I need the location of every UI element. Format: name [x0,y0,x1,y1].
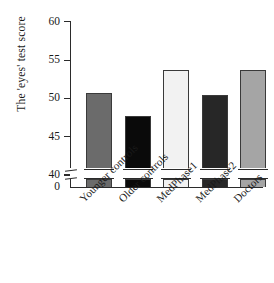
bar-3 [163,0,189,283]
y-tick-label-40: 40 [32,169,60,179]
bar-4 [202,0,228,283]
bar-2 [125,0,151,283]
bar-chart: The 'eyes' test score 4045505560 0 Young… [0,0,274,283]
bar-5 [240,0,266,283]
bar-body-1 [86,93,112,170]
y-tick-50 [64,98,70,99]
y-axis-line [70,21,71,168]
y-tick-45 [64,136,70,137]
y-axis-break-upper-icon [64,169,76,172]
bar-1 [86,0,112,283]
y-tick-label-60: 60 [32,16,60,26]
bar-body-5 [240,70,266,170]
y-tick-40 [64,174,70,175]
y-axis-title: The 'eyes' test score [15,0,27,139]
y-tick-label-55: 55 [32,54,60,64]
y-tick-55 [64,60,70,61]
y-tick-label-45: 45 [32,131,60,141]
y-tick-label-zero: 0 [32,181,60,191]
bar-body-4 [202,95,228,170]
y-tick-60 [64,21,70,22]
y-tick-label-50: 50 [32,92,60,102]
